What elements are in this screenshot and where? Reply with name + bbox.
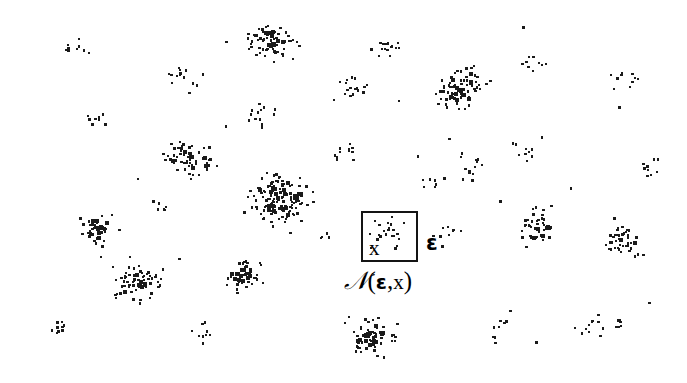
data-point xyxy=(188,92,190,94)
data-point xyxy=(521,236,523,238)
data-point xyxy=(617,247,619,249)
data-point xyxy=(454,86,456,88)
data-point xyxy=(170,74,172,76)
data-point xyxy=(83,49,85,51)
data-point xyxy=(247,33,249,35)
data-point xyxy=(611,242,613,244)
data-point xyxy=(279,27,281,29)
data-point xyxy=(56,321,58,323)
data-point xyxy=(466,84,468,86)
data-point xyxy=(138,265,140,267)
data-point xyxy=(454,92,458,96)
data-point xyxy=(281,183,283,185)
data-point xyxy=(266,205,268,207)
data-point xyxy=(123,280,125,282)
data-point xyxy=(152,200,154,202)
data-point xyxy=(205,334,207,336)
data-point xyxy=(525,148,527,150)
data-point xyxy=(177,147,179,149)
data-point xyxy=(257,187,259,189)
data-point xyxy=(463,80,465,82)
data-point xyxy=(521,63,523,65)
data-point xyxy=(457,90,459,92)
data-point xyxy=(437,103,439,105)
data-point xyxy=(521,230,523,232)
data-point xyxy=(132,281,134,283)
data-point xyxy=(357,346,359,348)
data-point xyxy=(543,224,545,226)
data-point xyxy=(528,225,530,227)
data-point xyxy=(260,264,262,266)
data-point xyxy=(293,214,295,216)
data-point xyxy=(162,153,164,155)
data-point xyxy=(460,79,462,81)
data-point xyxy=(273,198,275,200)
data-point xyxy=(243,211,245,213)
data-point xyxy=(271,181,273,183)
data-point xyxy=(262,48,264,50)
data-point xyxy=(195,163,197,165)
data-point xyxy=(124,275,126,277)
data-point xyxy=(525,61,527,63)
data-point xyxy=(94,224,96,226)
data-point xyxy=(179,141,181,143)
data-point xyxy=(180,148,182,150)
data-point xyxy=(236,288,238,290)
data-point xyxy=(627,237,629,239)
data-point xyxy=(588,324,590,326)
data-point xyxy=(191,145,193,147)
data-point xyxy=(254,118,256,120)
data-point xyxy=(375,340,377,342)
data-point xyxy=(256,278,258,280)
data-point xyxy=(541,214,543,216)
data-point xyxy=(535,206,537,208)
data-point xyxy=(474,90,476,92)
data-point xyxy=(354,77,356,79)
data-point xyxy=(91,219,95,223)
data-point xyxy=(477,158,479,160)
data-point xyxy=(149,282,151,284)
data-point xyxy=(656,171,658,173)
data-point xyxy=(291,184,293,186)
data-point xyxy=(537,219,539,221)
data-point xyxy=(585,328,587,330)
data-point xyxy=(481,164,483,166)
data-point xyxy=(531,148,533,150)
data-point xyxy=(254,34,256,36)
data-point xyxy=(281,41,283,43)
data-point xyxy=(100,226,102,228)
data-point xyxy=(258,28,260,30)
data-point xyxy=(263,190,265,192)
data-point xyxy=(209,158,211,160)
data-point xyxy=(357,342,359,344)
data-point xyxy=(386,49,388,51)
data-point xyxy=(398,100,400,102)
data-point xyxy=(619,244,621,246)
data-point xyxy=(274,52,276,54)
data-point xyxy=(620,251,622,253)
data-point xyxy=(625,245,627,247)
data-point xyxy=(248,274,252,278)
data-point xyxy=(443,85,445,87)
data-point xyxy=(78,45,80,47)
data-point xyxy=(192,174,194,176)
data-point xyxy=(133,267,135,269)
data-point xyxy=(262,218,264,220)
data-point xyxy=(207,164,209,166)
data-point xyxy=(186,160,188,162)
data-point xyxy=(118,229,120,231)
data-point xyxy=(493,326,495,328)
data-point xyxy=(287,35,289,37)
data-point xyxy=(208,146,210,148)
data-point xyxy=(355,350,357,352)
data-point xyxy=(616,77,618,79)
data-point xyxy=(94,118,96,120)
data-point xyxy=(283,48,285,50)
data-point xyxy=(125,272,127,274)
data-point xyxy=(541,217,543,219)
data-point xyxy=(203,156,207,160)
data-point xyxy=(367,321,369,323)
data-point xyxy=(470,80,472,82)
data-point xyxy=(615,326,617,328)
data-point xyxy=(105,221,109,225)
